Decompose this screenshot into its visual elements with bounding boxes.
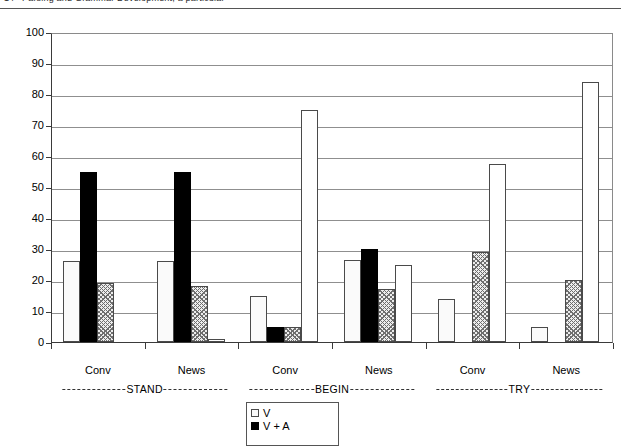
group-label-text: BEGIN — [314, 383, 350, 395]
gridline — [52, 127, 612, 128]
y-axis-tick-label: 80 — [0, 89, 44, 100]
bar-try-conv-a — [472, 252, 489, 342]
legend-swatch — [251, 409, 259, 417]
y-axis-tick-label: 20 — [0, 275, 44, 286]
gridline — [52, 220, 612, 221]
legend-label: V — [263, 407, 270, 419]
gridline — [52, 189, 612, 190]
bar-try-news-v — [531, 327, 548, 343]
leader-line-left — [249, 389, 314, 390]
legend-item-v: V — [251, 406, 338, 419]
x-axis-label-news: News — [365, 364, 393, 376]
leader-line-left — [437, 389, 508, 390]
bar-begin-news-a — [378, 289, 395, 342]
x-axis-tick-mark — [51, 343, 52, 349]
x-axis-label-news: News — [552, 364, 580, 376]
legend-label: V + A — [263, 420, 290, 432]
x-axis-tick-mark — [426, 343, 427, 349]
bar-stand-conv-v — [63, 261, 80, 342]
y-axis-tick-label: 50 — [0, 182, 44, 193]
x-axis-label-news: News — [178, 364, 206, 376]
group-label-text: TRY — [507, 383, 531, 395]
gridline — [52, 96, 612, 97]
bar-begin-conv-va — [267, 327, 284, 343]
x-axis-tick-mark — [613, 343, 614, 349]
y-axis-tick-label: 10 — [0, 306, 44, 317]
y-axis-tick-label: 70 — [0, 120, 44, 131]
bar-try-news-none — [582, 82, 599, 342]
leader-line-right — [164, 389, 228, 390]
x-axis-label-conv: Conv — [460, 364, 486, 376]
y-axis-tick-label: 30 — [0, 244, 44, 255]
gridline — [52, 251, 612, 252]
group-label-stand: STAND — [62, 383, 227, 395]
bar-stand-news-v — [157, 261, 174, 342]
bar-stand-news-a — [191, 286, 208, 342]
header-divider — [0, 8, 621, 9]
bar-stand-conv-va — [80, 172, 97, 343]
bar-try-conv-none — [489, 164, 506, 342]
x-axis-tick-mark — [238, 343, 239, 349]
leader-line-right — [531, 389, 602, 390]
running-title: Parsing and Grammar Development, a parti… — [22, 0, 225, 3]
page-number: 14 — [4, 0, 14, 3]
group-label-text: STAND — [126, 383, 164, 395]
bar-try-conv-v — [438, 299, 455, 342]
y-axis-tick-label: 90 — [0, 58, 44, 69]
x-axis-labels: ConvNewsConvNewsConvNews — [0, 364, 621, 380]
group-label-begin: BEGIN — [249, 383, 414, 395]
y-axis-tick-label: 100 — [0, 27, 44, 38]
bar-begin-news-none — [395, 265, 412, 343]
x-axis-tick-mark — [145, 343, 146, 349]
chart-legend: VV + A — [246, 402, 339, 446]
x-axis-label-conv: Conv — [85, 364, 111, 376]
plot-area — [51, 33, 613, 343]
legend-swatch — [251, 422, 259, 430]
bar-stand-news-va — [174, 172, 191, 343]
gridline — [52, 65, 612, 66]
bar-begin-conv-v — [250, 296, 267, 343]
bar-begin-news-va — [361, 249, 378, 342]
bar-begin-conv-none — [301, 110, 318, 343]
bar-stand-news-none — [208, 339, 225, 342]
group-label-try: TRY — [437, 383, 602, 395]
y-axis-tick-label: 0 — [0, 337, 44, 348]
x-axis-label-conv: Conv — [272, 364, 298, 376]
x-axis-tick-mark — [332, 343, 333, 349]
gridline — [52, 158, 612, 159]
group-labels: STANDBEGINTRY — [0, 383, 621, 399]
gridline — [52, 313, 612, 314]
y-axis-tick-label: 60 — [0, 151, 44, 162]
legend-item-va: V + A — [251, 419, 338, 432]
bar-try-news-a — [565, 280, 582, 342]
bar-begin-conv-a — [284, 327, 301, 343]
leader-line-right — [350, 389, 415, 390]
y-axis-tick-label: 40 — [0, 213, 44, 224]
x-axis-tick-mark — [519, 343, 520, 349]
gridline — [52, 282, 612, 283]
leader-line-left — [62, 389, 126, 390]
bar-chart: 0102030405060708090100 — [0, 14, 621, 359]
bar-begin-news-v — [344, 260, 361, 342]
bar-stand-conv-a — [97, 283, 114, 342]
